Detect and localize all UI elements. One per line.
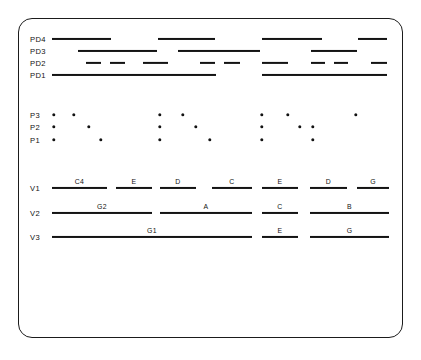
interval-bar: [357, 187, 389, 189]
interval-bar: [334, 62, 348, 64]
row-label-p3: P3: [30, 111, 40, 120]
interval-bar: [143, 62, 168, 64]
segment-label: D: [175, 178, 180, 185]
interval-bar: [311, 50, 357, 52]
segment-label: C: [277, 203, 282, 210]
segment-label: G: [370, 178, 376, 185]
interval-bar: [310, 187, 347, 189]
interval-bar: [262, 236, 298, 238]
point-marker: [311, 125, 314, 128]
segment-label: E: [278, 227, 283, 234]
row-label-v2: V2: [30, 209, 40, 218]
row-label-p2: P2: [30, 123, 40, 132]
row-label-pd4: PD4: [30, 35, 46, 44]
point-marker: [354, 113, 357, 116]
segment-label: G2: [97, 203, 107, 210]
interval-bar: [158, 38, 215, 40]
segment-label: E: [278, 178, 283, 185]
segment-label: A: [204, 203, 209, 210]
point-marker: [260, 125, 263, 128]
row-label-pd3: PD3: [30, 47, 46, 56]
point-marker: [158, 138, 161, 141]
interval-bar: [52, 74, 216, 76]
interval-bar: [310, 236, 389, 238]
point-marker: [311, 138, 314, 141]
interval-bar: [52, 187, 107, 189]
interval-bar: [358, 38, 387, 40]
row-label-v3: V3: [30, 233, 40, 242]
segment-label: C: [229, 178, 234, 185]
segment-label: G1: [147, 227, 157, 234]
interval-bar: [110, 62, 125, 64]
point-marker: [72, 113, 75, 116]
point-marker: [260, 138, 263, 141]
point-marker: [194, 125, 197, 128]
point-marker: [52, 113, 55, 116]
point-marker: [181, 113, 184, 116]
interval-bar: [78, 50, 157, 52]
row-label-p1: P1: [30, 136, 40, 145]
point-marker: [298, 125, 301, 128]
segment-label: D: [326, 178, 331, 185]
point-marker: [286, 113, 289, 116]
row-label-v1: V1: [30, 184, 40, 193]
point-marker: [208, 138, 211, 141]
interval-bar: [86, 62, 101, 64]
segment-label: G: [347, 227, 353, 234]
interval-bar: [116, 187, 152, 189]
row-label-pd2: PD2: [30, 59, 46, 68]
interval-bar: [371, 62, 387, 64]
interval-bar: [262, 38, 322, 40]
interval-bar: [262, 62, 288, 64]
interval-bar: [311, 62, 325, 64]
point-marker: [260, 113, 263, 116]
interval-bar: [160, 212, 252, 214]
point-marker: [52, 125, 55, 128]
segment-label: B: [347, 203, 352, 210]
point-marker: [158, 125, 161, 128]
interval-bar: [212, 187, 252, 189]
point-marker: [87, 125, 90, 128]
interval-bar: [52, 212, 152, 214]
interval-bar: [224, 62, 240, 64]
point-marker: [52, 138, 55, 141]
point-marker: [158, 113, 161, 116]
interval-bar: [52, 236, 252, 238]
interval-bar: [310, 212, 389, 214]
interval-bar: [178, 50, 260, 52]
interval-bar: [262, 74, 387, 76]
segment-label: C4: [75, 178, 84, 185]
interval-bar: [200, 62, 215, 64]
point-marker: [99, 138, 102, 141]
diagram-canvas: PD4PD3PD2PD1P3P2P1V1C4EDCEDGV2G2ACBV3G1E…: [0, 0, 421, 360]
interval-bar: [52, 38, 111, 40]
segment-label: E: [132, 178, 137, 185]
interval-bar: [262, 187, 298, 189]
interval-bar: [262, 212, 298, 214]
interval-bar: [160, 187, 196, 189]
row-label-pd1: PD1: [30, 71, 46, 80]
